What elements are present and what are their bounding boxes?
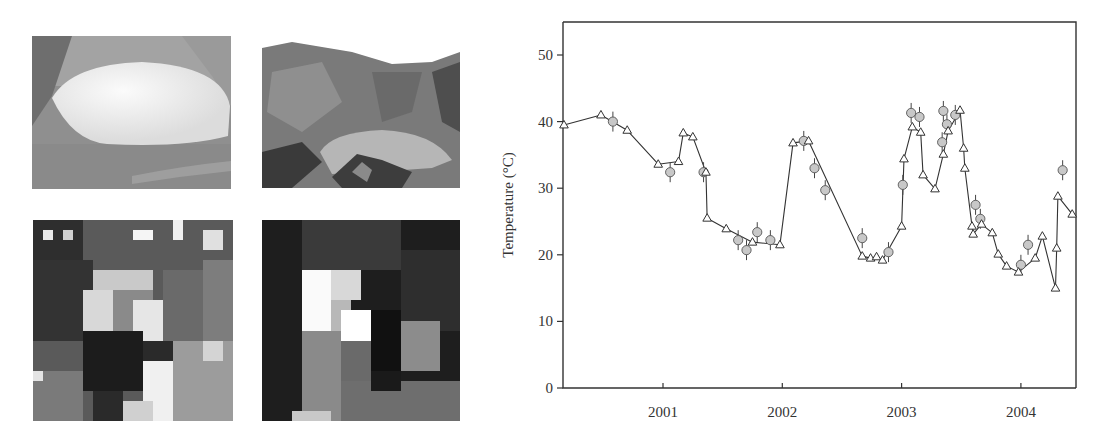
data-point-circle	[858, 234, 867, 243]
data-point-triangle	[908, 122, 917, 129]
data-point-circle	[1016, 260, 1025, 269]
y-axis-label: Temperature (°C)	[500, 152, 517, 257]
y-tick-label: 30	[538, 180, 553, 196]
triangle-series-line	[564, 110, 1072, 288]
data-point-circle	[1023, 240, 1032, 249]
data-point-circle	[821, 186, 830, 195]
circle-series-markers	[608, 101, 1067, 275]
temperature-chart: 010203040502001200220032004 Temperature …	[0, 0, 1118, 439]
data-point-circle	[898, 180, 907, 189]
data-point-circle	[907, 108, 916, 117]
data-point-triangle	[623, 126, 632, 133]
x-tick-label: 2001	[648, 404, 678, 420]
data-point-triangle	[703, 214, 712, 222]
data-point-circle	[939, 106, 948, 115]
data-point-circle	[1058, 166, 1067, 175]
data-point-triangle	[959, 144, 968, 152]
data-point-circle	[938, 138, 947, 147]
data-point-circle	[915, 112, 924, 121]
data-point-triangle	[919, 170, 928, 178]
data-point-circle	[753, 228, 762, 237]
data-point-triangle	[961, 164, 970, 172]
y-tick-label: 0	[546, 380, 554, 396]
data-point-triangle	[748, 238, 757, 246]
data-point-circle	[884, 248, 893, 257]
data-point-triangle	[968, 222, 977, 230]
chart-axes: 010203040502001200220032004	[538, 22, 1076, 420]
data-point-triangle	[1051, 284, 1060, 292]
y-tick-label: 20	[538, 247, 553, 263]
x-tick-label: 2002	[767, 404, 797, 420]
data-point-circle	[766, 236, 775, 245]
y-tick-label: 10	[538, 313, 553, 329]
data-point-circle	[666, 168, 675, 177]
data-point-triangle	[1054, 192, 1063, 200]
data-point-circle	[942, 120, 951, 129]
data-point-circle	[742, 246, 751, 255]
triangle-series-markers	[560, 106, 1077, 291]
data-point-triangle	[900, 154, 909, 162]
data-point-triangle	[939, 150, 948, 158]
data-point-triangle	[988, 228, 997, 236]
data-point-circle	[810, 164, 819, 173]
data-point-circle	[734, 236, 743, 245]
data-point-triangle	[858, 252, 867, 259]
data-point-triangle	[994, 250, 1003, 258]
data-point-triangle	[1031, 254, 1040, 262]
y-tick-label: 50	[538, 47, 553, 63]
data-point-triangle	[597, 110, 606, 118]
data-point-triangle	[916, 128, 925, 136]
data-point-triangle	[1052, 244, 1061, 252]
data-point-triangle	[956, 106, 965, 114]
data-point-circle	[608, 117, 617, 126]
data-point-triangle	[679, 128, 688, 136]
data-point-triangle	[872, 252, 881, 260]
data-point-triangle	[674, 157, 683, 165]
data-point-triangle	[1038, 232, 1047, 240]
data-point-triangle	[722, 224, 731, 232]
y-tick-label: 40	[538, 114, 553, 130]
data-point-triangle	[897, 222, 906, 230]
x-tick-label: 2003	[887, 404, 917, 420]
data-point-circle	[971, 200, 980, 209]
x-tick-label: 2004	[1006, 404, 1037, 420]
